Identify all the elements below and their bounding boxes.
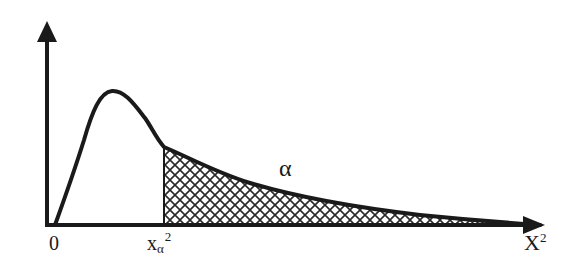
diagram-graphics bbox=[0, 0, 569, 278]
tail-area-label: α bbox=[279, 156, 292, 180]
shaded-tail-region bbox=[164, 140, 554, 226]
x-axis-label-superscript: 2 bbox=[540, 230, 547, 245]
arrow-up-icon bbox=[37, 21, 57, 42]
y-axis bbox=[37, 21, 57, 227]
critical-value-base: x bbox=[147, 232, 157, 254]
chi-square-diagram: 0 xα2 α X2 bbox=[0, 0, 569, 278]
x-axis-label-base: X bbox=[524, 230, 540, 255]
x-axis-label: X2 bbox=[524, 232, 546, 254]
critical-value-superscript: 2 bbox=[165, 229, 172, 244]
critical-value-subscript: α bbox=[157, 241, 164, 256]
critical-value-label: xα2 bbox=[147, 233, 171, 253]
origin-label: 0 bbox=[49, 233, 59, 253]
